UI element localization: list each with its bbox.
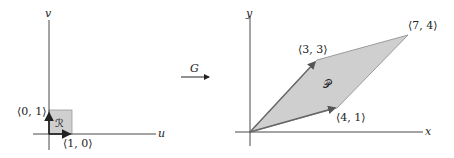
e1-label: ⟨1, 0⟩ — [63, 137, 93, 150]
y-axis-label: y — [245, 7, 253, 20]
x-axis-label: x — [425, 125, 432, 138]
uv-plane: u v ℛ ⟨0, 1⟩ ⟨1, 0⟩ — [17, 7, 165, 150]
xy-plane: x y 𝒫 ⟨3, 3⟩ ⟨4, 1⟩ ⟨7, 4⟩ — [235, 7, 438, 146]
diagram-canvas: u v ℛ ⟨0, 1⟩ ⟨1, 0⟩ G x y 𝒫 ⟨3, 3⟩ ⟨4, 1… — [0, 0, 454, 158]
v-axis-label: v — [45, 7, 52, 20]
region-r-label: ℛ — [55, 117, 64, 130]
vertex-4-1-label: ⟨4, 1⟩ — [336, 111, 366, 124]
e2-label: ⟨0, 1⟩ — [17, 105, 47, 118]
u-axis-label: u — [158, 127, 165, 140]
map-label: G — [190, 62, 199, 75]
vertex-3-3-label: ⟨3, 3⟩ — [298, 43, 328, 56]
map-g: G — [181, 62, 209, 77]
vertex-7-4-label: ⟨7, 4⟩ — [408, 19, 438, 32]
